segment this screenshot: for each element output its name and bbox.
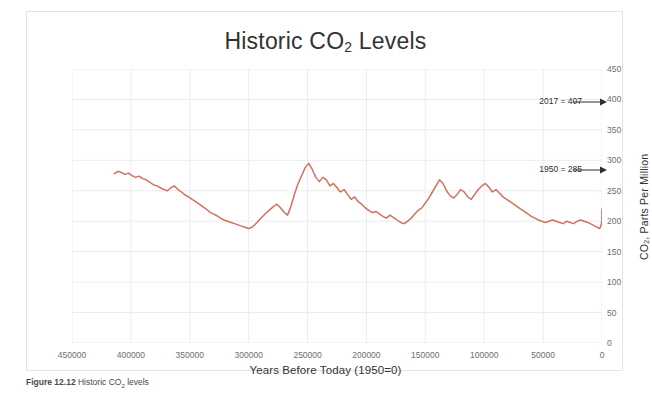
x-tick-label: 350000 bbox=[160, 350, 220, 360]
y-tick-label: 100 bbox=[607, 278, 633, 286]
chart-title-prefix: Historic CO bbox=[224, 28, 344, 54]
x-tick-label: 400000 bbox=[101, 350, 161, 360]
x-tick-label: 300000 bbox=[219, 350, 279, 360]
x-tick-label: 150000 bbox=[395, 350, 455, 360]
y-tick-label: 350 bbox=[607, 126, 633, 134]
plot-area bbox=[72, 69, 602, 343]
y-tick-label: 300 bbox=[607, 156, 633, 164]
x-axis-title: Years Before Today (1950=0) bbox=[27, 364, 624, 376]
y-axis-title-suffix: , Parts Per Million bbox=[638, 154, 650, 240]
chart-canvas bbox=[72, 69, 602, 343]
annotation-2017-arrow bbox=[573, 96, 607, 108]
annotation-2017: 2017 = 407 bbox=[467, 96, 582, 106]
y-tick-label: 250 bbox=[607, 187, 633, 195]
y-axis-title-prefix: CO bbox=[638, 244, 650, 260]
annotation-1950: 1950 = 285 bbox=[467, 164, 582, 174]
y-tick-label: 450 bbox=[607, 65, 633, 73]
chart-frame: Historic CO2 Levels 45040035030025020015… bbox=[26, 11, 623, 371]
y-tick-label: 200 bbox=[607, 217, 633, 225]
y-axis-title-subscript: 2 bbox=[643, 240, 650, 244]
y-tick-label: 50 bbox=[607, 309, 633, 317]
x-tick-label: 250000 bbox=[278, 350, 338, 360]
y-axis-title: CO2, Parts Per Million bbox=[638, 132, 652, 282]
chart-title: Historic CO2 Levels bbox=[27, 28, 624, 55]
figure-caption-label: Figure 12.12 bbox=[26, 377, 76, 387]
gridlines bbox=[72, 69, 602, 343]
y-axis-ticks: 450400350300250200150100500 bbox=[607, 63, 635, 349]
annotation-1950-arrow bbox=[573, 164, 607, 176]
x-tick-label: 450000 bbox=[42, 350, 102, 360]
y-tick-label: 0 bbox=[607, 339, 633, 347]
x-tick-label: 50000 bbox=[513, 350, 573, 360]
chart-title-subscript: 2 bbox=[344, 39, 352, 55]
y-tick-label: 400 bbox=[607, 95, 633, 103]
x-axis-ticks: 4500004000003500003000002500002000001500… bbox=[27, 350, 624, 362]
x-tick-label: 0 bbox=[572, 350, 632, 360]
chart-title-suffix: Levels bbox=[352, 28, 426, 54]
figure-caption-tail: levels bbox=[125, 377, 149, 387]
figure-caption: Figure 12.12 Historic CO2 levels bbox=[26, 377, 526, 391]
x-tick-label: 200000 bbox=[336, 350, 396, 360]
y-tick-label: 150 bbox=[607, 248, 633, 256]
x-tick-label: 100000 bbox=[454, 350, 514, 360]
figure-caption-text: Historic CO bbox=[78, 377, 121, 387]
